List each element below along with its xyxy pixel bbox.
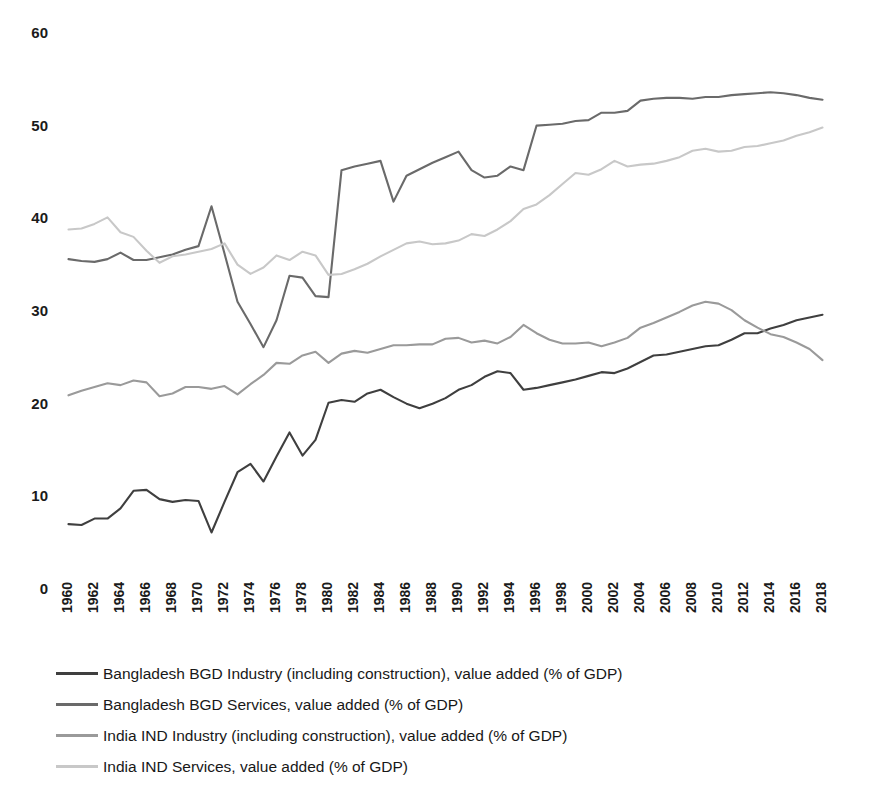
legend-swatch-icon: [56, 734, 98, 737]
legend-label: Bangladesh BGD Industry (including const…: [103, 665, 623, 683]
series-line-1: [69, 92, 823, 347]
legend-swatch-icon: [56, 703, 98, 706]
legend-swatch-icon: [56, 765, 98, 768]
legend-item-3[interactable]: India IND Services, value added (% of GD…: [56, 751, 856, 782]
legend-swatch-icon: [56, 672, 98, 675]
legend-label: India IND Industry (including constructi…: [103, 727, 567, 745]
legend-item-2[interactable]: India IND Industry (including constructi…: [56, 720, 856, 751]
legend-item-1[interactable]: Bangladesh BGD Services, value added (% …: [56, 689, 856, 720]
series-line-2: [69, 302, 823, 397]
line-chart: 0102030405060 19601962196419661968197019…: [0, 0, 869, 790]
series-line-0: [69, 315, 823, 533]
legend-label: India IND Services, value added (% of GD…: [103, 758, 408, 776]
legend-label: Bangladesh BGD Services, value added (% …: [103, 696, 463, 714]
chart-legend: Bangladesh BGD Industry (including const…: [56, 658, 856, 782]
legend-item-0[interactable]: Bangladesh BGD Industry (including const…: [56, 658, 856, 689]
series-line-3: [69, 128, 823, 275]
